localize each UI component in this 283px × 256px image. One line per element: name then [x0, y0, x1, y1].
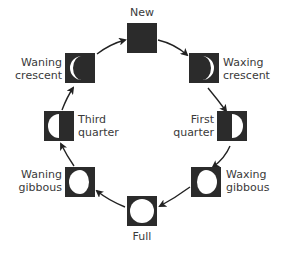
label-line: crescent: [4, 69, 62, 82]
label-line: Waning: [8, 168, 62, 181]
label-third-quarter: Third quarter: [78, 113, 119, 139]
moon-waning-gibbous-icon: [65, 167, 95, 197]
label-waning-crescent: Waning crescent: [4, 56, 62, 82]
label-first-quarter: First quarter: [170, 113, 214, 139]
label-line: Third: [78, 113, 119, 126]
label-full: Full: [127, 230, 157, 243]
moon-first-quarter-icon: [217, 111, 247, 141]
moon-waxing-gibbous-icon: [191, 167, 221, 197]
label-line: First: [170, 113, 214, 126]
moon-full-icon: [127, 196, 157, 226]
moon-waning-crescent-icon: [65, 53, 95, 83]
moon-new-icon: [127, 23, 157, 53]
label-line: gibbous: [226, 181, 269, 194]
label-line: Full: [127, 230, 157, 243]
moon-third-quarter-icon: [44, 111, 74, 141]
label-line: crescent: [223, 69, 270, 82]
diagram-graphics: [0, 0, 283, 256]
label-waxing-crescent: Waxing crescent: [223, 56, 270, 82]
moon-phase-diagram: New Waxing crescent First quarter Waxing…: [0, 0, 283, 256]
label-line: Waning: [4, 56, 62, 69]
moon-waxing-crescent-icon: [189, 53, 219, 83]
label-line: quarter: [78, 126, 119, 139]
label-line: New: [127, 6, 157, 19]
label-line: Waxing: [226, 168, 269, 181]
label-new: New: [127, 6, 157, 19]
label-line: gibbous: [8, 181, 62, 194]
label-waning-gibbous: Waning gibbous: [8, 168, 62, 194]
label-line: quarter: [170, 126, 214, 139]
label-waxing-gibbous: Waxing gibbous: [226, 168, 269, 194]
label-line: Waxing: [223, 56, 270, 69]
